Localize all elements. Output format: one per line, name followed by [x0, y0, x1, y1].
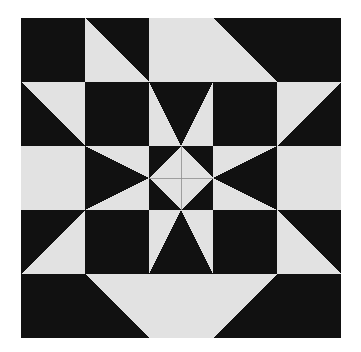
quilt-patch-r5-c1-corner-dark-square: [21, 274, 85, 338]
quilt-patch-r3-c2-hst-dark-point-right: [85, 146, 149, 210]
quilt-patch-r5-c2-hst-light-upper-right: [85, 274, 149, 338]
quilt-block-grid: [21, 18, 341, 338]
quilt-patch-r4-c5-hst-light-lower-left: [277, 210, 341, 274]
quilt-patch-r1-c5-corner-dark-square: [277, 18, 341, 82]
quilt-patch-r2-c3-half-hourglass-point-down: [149, 82, 213, 146]
quilt-patch-r4-c3-half-hourglass-point-up: [149, 210, 213, 274]
quilt-patch-r3-c5-side-light-square: [277, 146, 341, 210]
quilt-patch-r2-c1-hst-light-upper-right: [21, 82, 85, 146]
quilt-patch-r5-c5-corner-dark-square: [277, 274, 341, 338]
quilt-patch-r2-c4-dark-square: [213, 82, 277, 146]
quilt-patch-r2-c5-hst-light-upper-left: [277, 82, 341, 146]
quilt-patch-r5-c4-hst-light-upper-left: [213, 274, 277, 338]
quilt-patch-r4-c1-hst-light-lower-right: [21, 210, 85, 274]
quilt-patch-r1-c3-top-light-square: [149, 18, 213, 82]
quilt-patch-r2-c2-dark-square: [85, 82, 149, 146]
quilt-patch-r3-c4-hst-dark-point-left: [213, 146, 277, 210]
quilt-patch-r1-c2-hst-light-lower-left: [85, 18, 149, 82]
quilt-patch-r1-c1-corner-dark-square: [21, 18, 85, 82]
quilt-patch-r4-c4-dark-square: [213, 210, 277, 274]
quilt-patch-r4-c2-dark-square: [85, 210, 149, 274]
quilt-patch-r3-c3-center-diamond-four-patch: [149, 146, 213, 210]
quilt-patch-r5-c3-bottom-light-square: [149, 274, 213, 338]
quilt-patch-r3-c1-side-light-square: [21, 146, 85, 210]
quilt-patch-r1-c4-hst-light-lower-left: [213, 18, 277, 82]
quilt-canvas: [0, 0, 361, 352]
